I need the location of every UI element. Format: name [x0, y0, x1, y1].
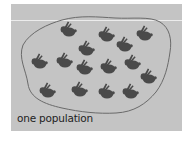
rabbit-icon	[125, 55, 141, 70]
rabbit-icon	[123, 84, 139, 99]
rabbit-icon	[40, 83, 56, 98]
rabbit-icon	[57, 53, 73, 68]
figure-caption: one population	[17, 112, 93, 124]
rabbit-icon	[61, 22, 77, 37]
rabbit-group	[32, 22, 157, 99]
rabbit-icon	[137, 26, 153, 41]
rabbit-icon	[72, 82, 88, 97]
rabbit-icon	[99, 84, 115, 99]
rabbit-icon	[77, 60, 93, 75]
rabbit-icon	[99, 27, 115, 42]
rabbit-icon	[141, 69, 157, 84]
rabbit-icon	[79, 41, 95, 56]
rabbit-icon	[101, 59, 117, 74]
rabbit-icon	[32, 54, 48, 69]
rabbit-icon	[117, 37, 133, 52]
